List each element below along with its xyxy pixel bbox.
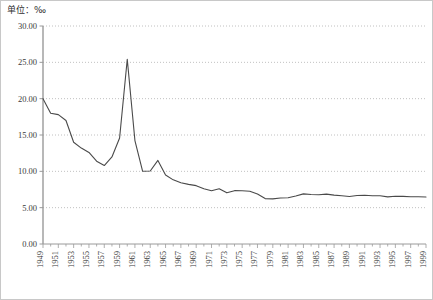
x-tick-label: 1999 (418, 251, 428, 268)
x-tick-label: 1975 (234, 251, 244, 268)
x-tick-label: 1981 (280, 251, 290, 268)
x-tick-label: 1969 (188, 251, 198, 268)
gridlines-group (43, 26, 426, 208)
x-tick-label: 1971 (204, 251, 214, 268)
x-tick-label: 1953 (66, 251, 76, 268)
y-tick-label: 10.00 (18, 166, 37, 176)
x-tick-label: 1955 (81, 251, 91, 268)
y-tick-label: 15.00 (18, 130, 37, 140)
x-tick-label: 1995 (387, 251, 397, 268)
x-tick-label: 1959 (112, 251, 122, 268)
x-tick-label: 1951 (50, 251, 60, 268)
x-tick-label: 1977 (249, 251, 259, 268)
x-tick-label: 1967 (173, 251, 183, 268)
death-rate-series (43, 59, 426, 199)
y-axis-tick-labels: 0.005.0010.0015.0020.0025.0030.00 (18, 21, 37, 249)
x-tick-label: 1949 (35, 251, 45, 268)
y-tick-label: 30.00 (18, 21, 37, 31)
data-series-line (43, 59, 426, 199)
x-tick-label: 1989 (341, 251, 351, 268)
x-tick-label: 1961 (127, 251, 137, 268)
x-tick-label: 1983 (295, 251, 305, 268)
x-tick-label: 1973 (219, 251, 229, 268)
y-tick-label: 25.00 (18, 57, 37, 67)
x-tick-label: 1957 (96, 251, 106, 268)
x-tick-label: 1965 (158, 251, 168, 268)
x-axis-ticks (43, 244, 426, 248)
chart-page: 单位：‰ 0.005.0010.0015.0020.0025.0030.00 1… (0, 0, 433, 300)
x-axis-tick-labels: 1949195119531955195719591961196319651967… (35, 251, 428, 268)
y-tick-label: 5.00 (22, 203, 37, 213)
x-tick-label: 1993 (372, 251, 382, 268)
x-tick-label: 1997 (403, 251, 413, 268)
death-rate-line-chart: 0.005.0010.0015.0020.0025.0030.00 194919… (1, 1, 433, 300)
x-tick-label: 1963 (142, 251, 152, 268)
x-tick-label: 1979 (265, 251, 275, 268)
x-tick-label: 1991 (357, 251, 367, 268)
y-tick-label: 20.00 (18, 94, 37, 104)
x-tick-label: 1985 (311, 251, 321, 268)
x-tick-label: 1987 (326, 251, 336, 268)
y-tick-label: 0.00 (22, 239, 37, 249)
